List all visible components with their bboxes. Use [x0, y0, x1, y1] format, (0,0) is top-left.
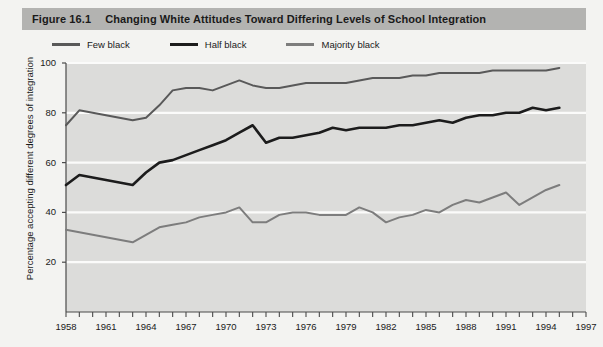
x-tick-label-1982: 1982 — [369, 321, 403, 332]
x-tick-label-1967: 1967 — [169, 321, 203, 332]
x-tick-label-1991: 1991 — [489, 321, 523, 332]
figure-container: Figure 16.1 Changing White Attitudes Tow… — [0, 0, 603, 347]
plot-background — [66, 63, 586, 312]
x-tick-label-1970: 1970 — [209, 321, 243, 332]
x-tick-label-1997: 1997 — [569, 321, 603, 332]
y-tick-label-100: 100 — [30, 57, 56, 68]
y-tick-label-60: 60 — [30, 157, 56, 168]
x-tick-label-1964: 1964 — [129, 321, 163, 332]
x-tick-label-1973: 1973 — [249, 321, 283, 332]
y-tick-label-20: 20 — [30, 256, 56, 267]
y-tick-label-40: 40 — [30, 206, 56, 217]
x-tick-label-1985: 1985 — [409, 321, 443, 332]
x-tick-label-1994: 1994 — [529, 321, 563, 332]
x-tick-label-1958: 1958 — [49, 321, 83, 332]
line-chart-svg — [0, 0, 603, 347]
x-tick-label-1976: 1976 — [289, 321, 323, 332]
x-tick-label-1988: 1988 — [449, 321, 483, 332]
x-tick-label-1979: 1979 — [329, 321, 363, 332]
y-tick-label-80: 80 — [30, 107, 56, 118]
chart-plot-area: Percentage accepting different degrees o… — [0, 0, 603, 347]
x-tick-label-1961: 1961 — [89, 321, 123, 332]
